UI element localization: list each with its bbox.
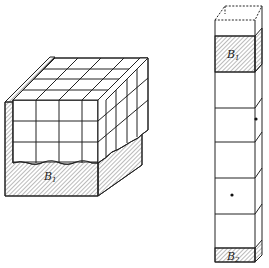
particle-dot [230,193,233,196]
right-column [215,6,262,262]
left-block [5,57,148,196]
particle-dot [254,117,257,120]
thermal-reservoir-diagram: B1 B1 B2 [0,0,269,268]
cell-grid-front [13,100,98,164]
